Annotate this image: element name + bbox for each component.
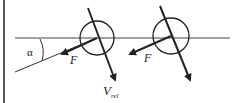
left-velocity-arrow [88, 8, 115, 80]
right-velocity-arrow [160, 6, 190, 80]
force-diagram: α F V rel F [0, 0, 242, 103]
angle-label: α [27, 46, 33, 58]
left-force-label: F [69, 53, 78, 67]
left-force-arrow [62, 38, 97, 54]
velocity-subscript: rel [111, 92, 119, 100]
angle-arc [40, 39, 43, 61]
right-force-label: F [143, 51, 152, 65]
